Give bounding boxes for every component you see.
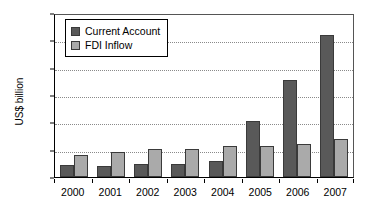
x-axis-tick-mark bbox=[129, 179, 130, 183]
y-axis-tick-mark bbox=[50, 41, 54, 42]
bar-group bbox=[167, 15, 204, 177]
bar-fdi-inflow-2006 bbox=[297, 144, 311, 177]
x-axis-tick-label: 2000 bbox=[61, 186, 84, 198]
x-axis-tick-label: 2001 bbox=[99, 186, 122, 198]
legend: Current Account FDI Inflow bbox=[65, 19, 168, 57]
y-axis-tick-mark bbox=[50, 68, 54, 69]
x-axis-tick-2001: 2001 bbox=[92, 179, 130, 209]
x-axis-tick-label: 2002 bbox=[136, 186, 159, 198]
x-axis-tick-label: 2005 bbox=[249, 186, 272, 198]
x-axis-tick-mark bbox=[204, 179, 205, 183]
x-axis-tick-mark bbox=[54, 179, 55, 183]
bar-chart: US$ billion 050100150200250300 200020012… bbox=[0, 0, 372, 216]
y-axis-tick-mark bbox=[50, 123, 54, 124]
y-axis-tick-mark bbox=[50, 150, 54, 151]
bar-fdi-inflow-2004 bbox=[223, 146, 237, 177]
x-axis-tick-2003: 2003 bbox=[167, 179, 205, 209]
x-axis-tick-mark bbox=[317, 179, 318, 183]
bar-fdi-inflow-2007 bbox=[334, 139, 348, 177]
bar-group bbox=[316, 15, 353, 177]
bar-current-account-2000 bbox=[60, 165, 74, 177]
legend-swatch-icon-fdi-inflow bbox=[71, 41, 80, 50]
x-axis-tick-mark bbox=[92, 179, 93, 183]
x-axis-tick-label: 2006 bbox=[286, 186, 309, 198]
x-axis-tick-2005: 2005 bbox=[242, 179, 280, 209]
bar-current-account-2006 bbox=[283, 80, 297, 177]
x-axis-tick-2007: 2007 bbox=[317, 179, 355, 209]
bar-current-account-2004 bbox=[209, 161, 223, 177]
x-axis-tick-label: 2004 bbox=[211, 186, 234, 198]
x-axis-tick-2002: 2002 bbox=[129, 179, 167, 209]
x-axis-tick-2006: 2006 bbox=[279, 179, 317, 209]
bar-group bbox=[241, 15, 278, 177]
y-axis-tick-mark bbox=[50, 96, 54, 97]
legend-label-fdi-inflow: FDI Inflow bbox=[85, 39, 132, 51]
bar-current-account-2003 bbox=[171, 164, 185, 177]
bar-group bbox=[204, 15, 241, 177]
bar-current-account-2002 bbox=[134, 164, 148, 177]
x-axis-tick-2000: 2000 bbox=[54, 179, 92, 209]
legend-swatch-icon-current-account bbox=[71, 27, 80, 36]
bar-fdi-inflow-2001 bbox=[111, 152, 125, 177]
x-axis-tick-mark bbox=[353, 179, 354, 183]
x-axis-tick-label: 2007 bbox=[324, 186, 347, 198]
y-axis-title: US$ billion bbox=[14, 47, 25, 157]
bar-group bbox=[279, 15, 316, 177]
x-axis-tick-mark bbox=[242, 179, 243, 183]
legend-item-fdi-inflow: FDI Inflow bbox=[71, 38, 160, 52]
x-axis-tick-mark bbox=[167, 179, 168, 183]
x-axis-ticks: 20002001200220032004200520062007 bbox=[54, 179, 354, 209]
x-axis-tick-label: 2003 bbox=[174, 186, 197, 198]
legend-label-current-account: Current Account bbox=[85, 25, 160, 37]
x-axis-tick-2004: 2004 bbox=[204, 179, 242, 209]
bar-fdi-inflow-2005 bbox=[260, 146, 274, 177]
bar-current-account-2007 bbox=[320, 35, 334, 177]
bar-current-account-2005 bbox=[246, 121, 260, 177]
legend-item-current-account: Current Account bbox=[71, 24, 160, 38]
bar-current-account-2001 bbox=[97, 166, 111, 177]
bar-fdi-inflow-2000 bbox=[74, 155, 88, 177]
x-axis-tick-mark bbox=[279, 179, 280, 183]
bar-fdi-inflow-2002 bbox=[148, 149, 162, 177]
y-axis-tick-mark bbox=[50, 14, 54, 15]
bar-fdi-inflow-2003 bbox=[185, 149, 199, 177]
